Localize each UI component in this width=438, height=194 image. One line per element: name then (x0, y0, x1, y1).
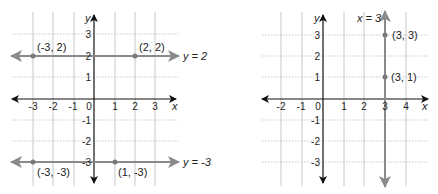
tick: 2 (361, 101, 367, 112)
tick: 2 (132, 101, 138, 112)
tick: -1 (82, 115, 91, 126)
tick: -1 (297, 101, 306, 112)
label-3-1: (3, 1) (391, 71, 417, 83)
tick: 1 (341, 101, 347, 112)
right-x-ticks: -2 -1 0 1 2 3 4 (277, 101, 410, 112)
tick: -2 (49, 101, 58, 112)
tick: -3 (311, 157, 320, 168)
tick: 4 (403, 101, 409, 112)
equation-x-equals-3: x = 3 (356, 12, 382, 24)
tick: 1 (314, 72, 320, 83)
label-2-2: (2, 2) (139, 41, 165, 53)
point-neg3-2 (31, 54, 36, 59)
tick: 0 (315, 101, 321, 112)
left-y-axis-label: y (84, 12, 92, 24)
point-neg3-neg3 (31, 160, 36, 165)
equation-y-equals-2: y = 2 (182, 50, 207, 62)
label-neg3-neg3: (-3, -3) (37, 166, 70, 178)
label-3-3: (3, 3) (392, 29, 418, 41)
right-y-axis-label: y (313, 12, 321, 24)
tick: -2 (277, 101, 286, 112)
tick: -1 (311, 115, 320, 126)
point-2-2 (133, 54, 138, 59)
tick: 3 (85, 29, 91, 40)
tick: 0 (86, 101, 92, 112)
left-x-axis-label: x (171, 100, 178, 112)
tick: 3 (152, 101, 158, 112)
label-neg3-2: (-3, 2) (37, 41, 66, 53)
tick: -2 (82, 136, 91, 147)
tick: -1 (69, 101, 78, 112)
tick: 2 (314, 51, 320, 62)
tick: -3 (82, 157, 91, 168)
point-3-1 (383, 75, 388, 80)
point-3-3 (383, 33, 388, 38)
left-graph: y x -3 -2 -1 0 1 2 3 3 2 1 -1 -2 -3 (-3,… (11, 12, 212, 186)
tick: 3 (314, 30, 320, 41)
point-1-neg3 (113, 160, 118, 165)
tick: 1 (85, 72, 91, 83)
coordinate-graphs-figure: y x -3 -2 -1 0 1 2 3 3 2 1 -1 -2 -3 (-3,… (0, 0, 438, 194)
tick: -2 (311, 136, 320, 147)
left-x-ticks: -3 -2 -1 0 1 2 3 (29, 101, 159, 112)
label-1-neg3: (1, -3) (118, 166, 147, 178)
right-graph: y x -2 -1 0 1 2 3 4 3 2 1 -1 -2 -3 (3, 3… (262, 11, 428, 187)
tick: 1 (112, 101, 118, 112)
tick: -3 (29, 101, 38, 112)
tick: 2 (85, 51, 91, 62)
equation-y-equals-neg3: y = -3 (182, 156, 212, 168)
right-x-axis-label: x (421, 100, 428, 112)
tick: 3 (382, 101, 388, 112)
